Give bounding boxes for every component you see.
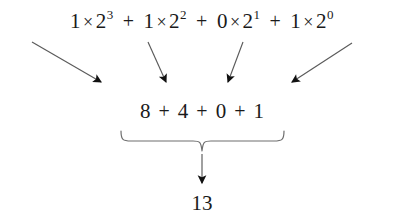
value-0: 8: [140, 98, 151, 124]
term-exponent: 0: [327, 7, 334, 22]
expansion-term-1: 1×22: [143, 8, 187, 35]
value-plus-1: +: [188, 98, 215, 124]
value-2: 0: [216, 98, 227, 124]
term-exponent: 1: [254, 7, 261, 22]
expansion-term-3: 1×20: [290, 8, 334, 35]
arrow-term-0-to-value-0: [32, 42, 101, 82]
term-coefficient: 1: [290, 9, 301, 33]
term-exponent: 3: [107, 7, 114, 22]
expansion-row: 1×23+1×22+0×21+1×20: [0, 8, 404, 35]
term-base: 2: [316, 9, 327, 33]
result-row: 13: [0, 190, 404, 216]
expansion-plus-1: +: [187, 8, 217, 34]
multiplication-sign: ×: [228, 12, 243, 32]
expansion-term-2: 0×21: [217, 8, 261, 35]
arrow-term-2-to-value-2: [228, 42, 243, 82]
binary-expansion-diagram: 1×23+1×22+0×21+1×20 8+4+0+1 13: [0, 0, 404, 222]
term-coefficient: 0: [217, 9, 228, 33]
underbrace: [121, 131, 284, 151]
term-coefficient: 1: [143, 9, 154, 33]
value-plus-2: +: [226, 98, 253, 124]
term-exponent: 2: [180, 7, 187, 22]
expansion-plus-2: +: [261, 8, 291, 34]
arrow-term-1-to-value-1: [148, 42, 166, 82]
value-3: 1: [253, 98, 264, 124]
term-coefficient: 1: [70, 9, 81, 33]
term-base: 2: [96, 9, 107, 33]
values-row: 8+4+0+1: [0, 98, 404, 124]
result-value: 13: [192, 191, 213, 215]
multiplication-sign: ×: [154, 12, 169, 32]
value-plus-0: +: [151, 98, 178, 124]
expansion-term-0: 1×23: [70, 8, 114, 35]
arrow-term-3-to-value-3: [292, 43, 352, 82]
term-base: 2: [243, 9, 254, 33]
value-1: 4: [178, 98, 189, 124]
multiplication-sign: ×: [81, 12, 96, 32]
multiplication-sign: ×: [301, 12, 316, 32]
expansion-plus-0: +: [114, 8, 144, 34]
term-base: 2: [169, 9, 180, 33]
